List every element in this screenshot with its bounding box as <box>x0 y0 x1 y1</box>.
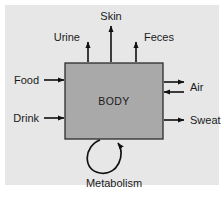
metabolism-loop-arrow <box>87 140 121 173</box>
body-balance-diagram: BODY Urine Skin Feces Food Drink Air Swe… <box>0 0 224 201</box>
air-label: Air <box>190 81 204 93</box>
urine-label: Urine <box>54 31 80 43</box>
metabolism-label: Metabolism <box>86 177 142 189</box>
food-label: Food <box>14 74 39 86</box>
figure-root: BODY Urine Skin Feces Food Drink Air Swe… <box>0 0 224 201</box>
feces-label: Feces <box>144 31 174 43</box>
skin-label: Skin <box>100 10 121 22</box>
sweat-label: Sweat <box>190 114 221 126</box>
drink-label: Drink <box>13 112 39 124</box>
body-box-label: BODY <box>98 95 129 107</box>
